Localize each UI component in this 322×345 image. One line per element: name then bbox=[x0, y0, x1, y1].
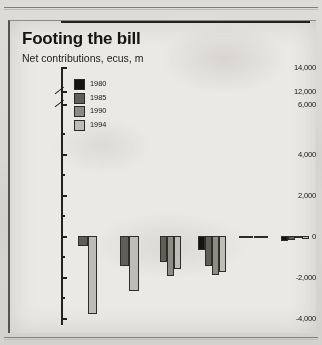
legend-swatch-icon bbox=[74, 79, 85, 90]
figure-root: Footing the bill Net contributions, ecus… bbox=[0, 0, 322, 345]
bar-spain-1994 bbox=[129, 236, 139, 291]
bottom-divider-secondary bbox=[4, 339, 318, 340]
bar-group-portugal bbox=[69, 21, 110, 333]
bar-denmark-1990 bbox=[295, 236, 302, 238]
bar-portugal-1994 bbox=[88, 236, 98, 314]
bar-series-container bbox=[61, 21, 310, 333]
bar-ireland-1980 bbox=[198, 236, 205, 250]
bar-group-luxembourg bbox=[235, 21, 276, 333]
bar-ireland-1994 bbox=[219, 236, 226, 272]
bar-group-denmark bbox=[277, 21, 317, 333]
bar-greece-1990 bbox=[167, 236, 174, 276]
legend-label: 1980 bbox=[90, 79, 106, 88]
top-divider-secondary bbox=[4, 9, 318, 10]
legend-label: 1994 bbox=[90, 120, 106, 129]
bar-portugal-1985 bbox=[78, 236, 88, 246]
bar-luxembourg-1980 bbox=[239, 236, 246, 238]
top-divider bbox=[4, 7, 318, 8]
bar-denmark-1980 bbox=[281, 236, 288, 241]
bar-greece-1985 bbox=[160, 236, 167, 262]
legend-swatch-icon bbox=[74, 93, 85, 104]
bar-luxembourg-1994 bbox=[261, 236, 268, 238]
bar-luxembourg-1990 bbox=[254, 236, 261, 238]
legend-label: 1990 bbox=[90, 106, 106, 115]
legend-swatch-icon bbox=[74, 120, 85, 131]
bar-group-greece bbox=[152, 21, 193, 333]
bar-denmark-1985 bbox=[288, 236, 295, 240]
chart-panel: Footing the bill Net contributions, ecus… bbox=[8, 20, 316, 333]
plot-area: 14,00012,0006,0004,0002,0000-2,000-4,000… bbox=[10, 21, 316, 333]
bar-spain-1985 bbox=[120, 236, 130, 266]
bar-luxembourg-1985 bbox=[246, 236, 253, 238]
legend-label: 1985 bbox=[90, 93, 106, 102]
bar-group-ireland bbox=[194, 21, 235, 333]
bottom-divider bbox=[4, 337, 318, 338]
bar-group-spain bbox=[111, 21, 152, 333]
bar-greece-1994 bbox=[174, 236, 181, 269]
legend-swatch-icon bbox=[74, 106, 85, 117]
bar-ireland-1990 bbox=[212, 236, 219, 275]
bar-ireland-1985 bbox=[205, 236, 212, 266]
bar-denmark-1994 bbox=[302, 236, 309, 239]
